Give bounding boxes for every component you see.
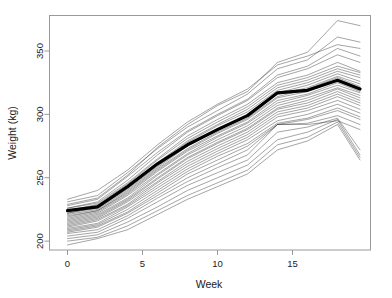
x-tick-label: 15 — [287, 258, 298, 269]
y-tick-label: 250 — [34, 170, 45, 186]
x-tick-label: 0 — [65, 258, 70, 269]
y-tick-label: 300 — [34, 106, 45, 122]
y-axis-title: Weight (kg) — [6, 106, 18, 160]
y-tick-label: 200 — [34, 233, 45, 249]
x-tick-label: 10 — [212, 258, 223, 269]
x-axis-title: Week — [196, 278, 223, 290]
chart-container: 051015 200250300350 Week Weight (kg) — [0, 0, 392, 298]
x-tick-label: 5 — [140, 258, 145, 269]
y-tick-label: 350 — [34, 43, 45, 59]
weight-vs-week-line-chart: 051015 200250300350 Week Weight (kg) — [0, 0, 392, 298]
